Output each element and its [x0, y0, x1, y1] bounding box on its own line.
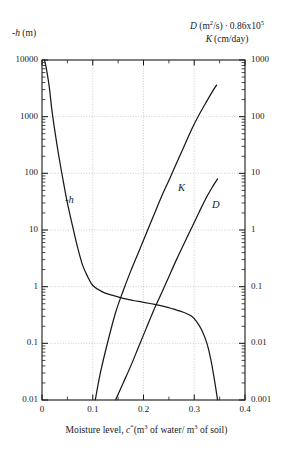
- x-tick-label: 0.2: [126, 404, 162, 414]
- figure-container: -h(m) D (m2/s)·0.86x105 K(cm/day) 100001…: [0, 0, 293, 456]
- x-tick-label: 0.4: [227, 404, 263, 414]
- y-right-tick-label: 0.001: [251, 394, 291, 404]
- gridlines: [42, 60, 245, 400]
- hydraulic-conductivity-curve-label: K: [178, 182, 185, 193]
- y-left-tick-label: 0.1: [2, 337, 38, 347]
- x-axis-caption: Moisture level, c*(m3 of water/ m3 of so…: [0, 424, 293, 435]
- y-left-tick-label: 1: [2, 281, 38, 291]
- y-right-tick-label: 10: [251, 167, 291, 177]
- y-left-tick-label: 0.01: [2, 394, 38, 404]
- y-left-tick-label: 10000: [2, 54, 38, 64]
- x-tick-label: 0: [24, 404, 60, 414]
- x-tick-label: 0.1: [75, 404, 111, 414]
- suction-head-curve-label: -h: [65, 194, 74, 205]
- x-caption-prefix: Moisture level,: [66, 424, 126, 435]
- x-tick-label: 0.3: [176, 404, 212, 414]
- diffusivity-curve-label: D: [212, 199, 220, 210]
- y-right-tick-label: 100: [251, 111, 291, 121]
- y-left-tick-label: 1000: [2, 111, 38, 121]
- plot-area: [0, 0, 293, 456]
- y-right-tick-label: 1: [251, 224, 291, 234]
- y-right-tick-label: 0.01: [251, 337, 291, 347]
- y-left-tick-label: 100: [2, 167, 38, 177]
- y-right-tick-label: 1000: [251, 54, 291, 64]
- y-right-tick-label: 0.1: [251, 281, 291, 291]
- x-caption-units: (m3 of water/ m3 of soil): [134, 424, 228, 435]
- y-left-tick-label: 10: [2, 224, 38, 234]
